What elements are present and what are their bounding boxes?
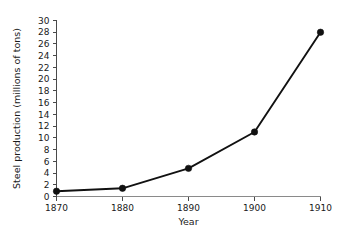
y-tick-label: 4 (44, 168, 50, 178)
x-axis-tick-labels: 18701880189019001910 (45, 203, 332, 213)
y-tick-label: 0 (44, 192, 50, 202)
series-markers (53, 29, 323, 194)
y-tick-label: 6 (44, 157, 50, 167)
y-tick-label: 22 (38, 63, 49, 73)
y-tick-label: 28 (38, 27, 50, 37)
y-tick-label: 14 (38, 110, 50, 120)
x-tick-label: 1870 (45, 203, 68, 213)
line-chart: 024681012141618202224262830 187018801890… (0, 0, 348, 236)
data-point-marker (185, 165, 191, 171)
y-tick-label: 16 (38, 98, 50, 108)
y-axis-title: Steel production (millions of tons) (11, 28, 22, 189)
x-tick-label: 1890 (177, 203, 200, 213)
y-tick-label: 10 (38, 133, 50, 143)
data-point-marker (53, 188, 59, 194)
data-point-marker (119, 185, 125, 191)
y-axis-tick-labels: 024681012141618202224262830 (38, 16, 50, 202)
data-point-marker (317, 29, 323, 35)
y-tick-label: 26 (38, 39, 50, 49)
x-tick-label: 1900 (243, 203, 266, 213)
y-tick-label: 2 (44, 180, 50, 190)
data-point-marker (251, 129, 257, 135)
x-tick-label: 1910 (309, 203, 332, 213)
x-tick-label: 1880 (111, 203, 134, 213)
y-tick-label: 30 (38, 16, 50, 26)
chart-container: 024681012141618202224262830 187018801890… (0, 0, 348, 236)
y-axis-tick-marks (53, 21, 57, 197)
y-tick-label: 18 (38, 86, 50, 96)
y-tick-label: 8 (44, 145, 50, 155)
y-tick-label: 12 (38, 121, 49, 131)
x-axis-title: Year (177, 216, 198, 227)
y-tick-label: 24 (38, 51, 50, 61)
x-axis-tick-marks (57, 197, 321, 201)
y-tick-label: 20 (38, 74, 50, 84)
